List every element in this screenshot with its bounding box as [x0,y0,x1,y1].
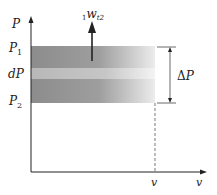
x-axis-arrow-icon [200,170,207,175]
pv-diagram: P P1 dP P2 1wt2 ΔP v v [0,0,217,195]
shaded-region [31,46,155,103]
lower-band [31,79,155,103]
v-tick-label: v [151,176,158,189]
y-axis-label: P [11,17,21,31]
p2-label: P2 [8,94,22,110]
work-label: 1wt2 [82,7,105,22]
y-axis-arrow-icon [29,16,34,23]
delta-p-label: ΔP [177,69,195,83]
dp-label: dP [8,67,25,81]
dim-arrow-down-icon [168,98,172,103]
upper-band [31,46,155,68]
dim-arrow-up-icon [168,47,172,52]
dp-band [31,68,155,79]
p1-label: P1 [8,41,22,57]
up-arrow-icon [88,21,96,33]
x-axis-label: v [196,176,203,189]
delta-p-dimension [157,47,176,103]
